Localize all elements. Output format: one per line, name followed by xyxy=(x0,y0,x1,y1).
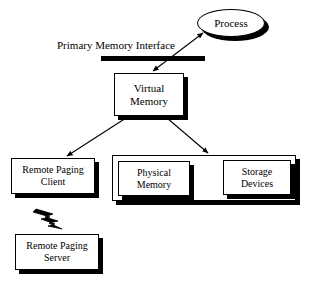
primary-memory-interface-label: Primary Memory Interface xyxy=(57,39,175,51)
connector-virtual-memory-to-remote-paging-client xyxy=(67,118,126,156)
remote-paging-client-node[interactable]: Remote Paging Client xyxy=(11,158,95,194)
wireless-link-lightning-bolt-icon xyxy=(33,209,62,229)
virtual-memory-node-label-line2: Memory xyxy=(130,95,168,108)
virtual-memory-node[interactable]: Virtual Memory xyxy=(114,73,184,116)
process-node-label: Process xyxy=(214,17,248,29)
process-node[interactable]: Process xyxy=(197,9,265,37)
primary-memory-interface-bar xyxy=(101,56,205,61)
connector-virtual-memory-to-local-storage xyxy=(167,118,208,153)
remote-paging-client-node-label-line2: Client xyxy=(41,176,65,188)
remote-paging-server-node-label-line2: Server xyxy=(44,252,70,264)
storage-devices-node-label-line2: Devices xyxy=(241,178,273,190)
diagram-canvas: Process Primary Memory Interface Virtual… xyxy=(0,0,316,286)
storage-devices-node-label-line1: Storage xyxy=(242,166,273,178)
remote-paging-server-node-label-line1: Remote Paging xyxy=(26,240,87,252)
remote-paging-client-node-label-line1: Remote Paging xyxy=(22,164,83,176)
physical-memory-node-label-line2: Memory xyxy=(137,179,171,191)
physical-memory-node-label-line1: Physical xyxy=(137,167,171,179)
storage-devices-node[interactable]: Storage Devices xyxy=(223,160,291,195)
physical-memory-node[interactable]: Physical Memory xyxy=(118,161,190,196)
remote-paging-server-node[interactable]: Remote Paging Server xyxy=(15,234,99,270)
virtual-memory-node-label-line1: Virtual xyxy=(134,82,165,95)
